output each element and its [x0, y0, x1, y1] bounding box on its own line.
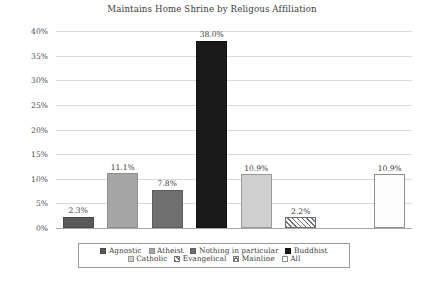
legend-item-label: Catholic [136, 255, 167, 262]
legend-item-label: Agnostic [109, 247, 142, 254]
legend-item-label: Atheist [157, 247, 183, 254]
bar-group: 7.8% [152, 31, 183, 228]
legend-item[interactable]: Mainline [233, 255, 274, 262]
legend-item[interactable]: Catholic [128, 255, 168, 262]
chart-title: Maintains Home Shrine by Religous Affili… [0, 4, 424, 14]
bar-value-label: 38.0% [200, 30, 224, 39]
chart-legend: AgnosticAtheistNothing in particularBudd… [78, 243, 350, 268]
legend-item-label: All [290, 255, 300, 262]
bar[interactable] [107, 173, 138, 228]
bar-group: 11.1% [107, 31, 138, 228]
bar-group [330, 31, 361, 228]
y-axis-tick-label: 40% [31, 27, 48, 36]
legend-item[interactable]: Nothing in particular [190, 247, 278, 254]
legend-swatch-icon [174, 256, 180, 262]
legend-row-secondary: CatholicEvangelicalMainlineAll [83, 255, 345, 262]
bar[interactable] [285, 217, 316, 228]
y-axis-tick-label: 5% [36, 199, 48, 208]
y-axis-tick-label: 20% [31, 125, 48, 134]
x-axis-baseline [56, 228, 412, 229]
bar-group: 10.9% [241, 31, 272, 228]
y-axis-tick-label: 15% [31, 150, 48, 159]
legend-swatch-icon [128, 256, 134, 262]
legend-item[interactable]: Atheist [149, 247, 184, 254]
bar[interactable] [241, 174, 272, 228]
legend-swatch-icon [100, 248, 106, 254]
legend-item[interactable]: Agnostic [100, 247, 141, 254]
bar-value-label: 7.8% [158, 179, 177, 188]
legend-item[interactable]: Evangelical [174, 255, 226, 262]
bar-group: 10.9% [374, 31, 405, 228]
legend-swatch-icon [285, 248, 291, 254]
legend-item-label: Mainline [242, 255, 275, 262]
legend-swatch-icon [282, 256, 288, 262]
bar[interactable] [374, 174, 405, 228]
bar-value-label: 2.3% [69, 206, 88, 215]
bar-value-label: 10.9% [378, 164, 402, 173]
bar[interactable] [196, 41, 227, 228]
bar-group: 38.0% [196, 31, 227, 228]
y-axis: 40%35%30%25%20%15%10%5%0% [0, 31, 52, 228]
y-axis-tick-label: 35% [31, 51, 48, 60]
legend-swatch-icon [190, 248, 196, 254]
bars-layer: 2.3%11.1%7.8%38.0%10.9%2.2%10.9% [56, 31, 412, 228]
legend-swatch-icon [149, 248, 155, 254]
legend-row-primary: AgnosticAtheistNothing in particularBudd… [83, 247, 345, 254]
plot-area: 2.3%11.1%7.8%38.0%10.9%2.2%10.9% [56, 31, 412, 228]
bar-value-label: 2.2% [291, 207, 310, 216]
legend-item[interactable]: All [282, 255, 301, 262]
legend-item-label: Buddhist [294, 247, 328, 254]
legend-swatch-icon [233, 256, 239, 262]
y-axis-tick-label: 25% [31, 100, 48, 109]
y-axis-tick-label: 10% [31, 174, 48, 183]
legend-item-label: Evangelical [183, 255, 226, 262]
legend-item[interactable]: Buddhist [285, 247, 327, 254]
bar-group: 2.3% [63, 31, 94, 228]
legend-item-label: Nothing in particular [199, 247, 279, 254]
bar[interactable] [63, 217, 94, 228]
bar-group: 2.2% [285, 31, 316, 228]
bar[interactable] [152, 190, 183, 228]
bar-chart: Maintains Home Shrine by Religous Affili… [0, 0, 424, 297]
bar-value-label: 11.1% [111, 163, 135, 172]
y-axis-tick-label: 0% [36, 224, 48, 233]
bar-value-label: 10.9% [244, 164, 268, 173]
y-axis-tick-label: 30% [31, 76, 48, 85]
